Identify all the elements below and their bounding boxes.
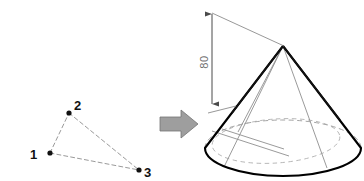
edge-1-2 xyxy=(50,113,69,153)
inner-section-ellipse xyxy=(211,115,342,168)
point-dot xyxy=(66,110,71,115)
point-3[interactable]: 3 xyxy=(136,165,151,180)
arrow-right-icon xyxy=(160,110,198,138)
slant-guide-line xyxy=(212,131,289,156)
point-1-label: 1 xyxy=(30,147,37,162)
triangle-edges xyxy=(50,113,139,170)
point-dot xyxy=(47,150,52,155)
point-2[interactable]: 2 xyxy=(66,98,81,116)
dimension-value-label: 80 xyxy=(198,55,210,68)
point-2-label: 2 xyxy=(74,98,81,113)
base-ellipse-hidden-arc xyxy=(205,120,361,148)
edge-2-3 xyxy=(69,113,139,170)
apex-to-base-right xyxy=(283,46,327,168)
radius-guide-line xyxy=(222,129,284,149)
triangle-group: 1 2 3 xyxy=(30,98,151,180)
transform-arrow xyxy=(160,110,198,138)
edge-1-3 xyxy=(50,153,139,170)
point-dot xyxy=(136,167,141,172)
cone-silhouette xyxy=(205,46,361,176)
apex-edge-left xyxy=(232,46,283,113)
figure-svg: 1 2 3 xyxy=(0,0,364,181)
cone-group xyxy=(205,46,361,176)
point-1[interactable]: 1 xyxy=(30,147,53,162)
apex-edge-right xyxy=(283,46,340,120)
point-3-label: 3 xyxy=(144,165,151,180)
extension-line-top xyxy=(212,13,284,46)
figure-canvas: 1 2 3 xyxy=(0,0,364,181)
cone-apex-edges xyxy=(232,46,340,120)
